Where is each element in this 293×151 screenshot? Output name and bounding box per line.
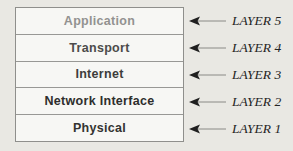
layer-box-label: Application	[64, 14, 135, 28]
layer-annotation-2: LAYER 2	[189, 88, 281, 115]
layer-box-label: Internet	[75, 67, 123, 81]
layer-box-transport: Transport	[16, 34, 183, 61]
layer-box-label: Network Interface	[45, 94, 155, 108]
layer-tag: LAYER 1	[232, 121, 281, 137]
layer-tag: LAYER 4	[232, 40, 281, 56]
left-arrow-icon	[189, 124, 227, 134]
layer-annotations: LAYER 5 LAYER 4 LAYER 3 LAYER 2	[189, 7, 281, 142]
layer-annotation-4: LAYER 4	[189, 34, 281, 61]
left-arrow-icon	[189, 70, 227, 80]
layer-tag: LAYER 5	[232, 13, 281, 29]
layer-annotation-3: LAYER 3	[189, 61, 281, 88]
layer-box-network-interface: Network Interface	[16, 87, 183, 114]
left-arrow-icon	[189, 43, 227, 53]
left-arrow-icon	[189, 97, 227, 107]
protocol-stack-box: Application Transport Internet Network I…	[15, 7, 184, 142]
layer-box-label: Transport	[69, 41, 129, 55]
layer-box-physical: Physical	[16, 114, 183, 141]
layer-annotation-1: LAYER 1	[189, 115, 281, 142]
layer-box-label: Physical	[73, 121, 126, 135]
left-arrow-icon	[189, 16, 227, 26]
layer-tag: LAYER 3	[232, 67, 281, 83]
layer-tag: LAYER 2	[232, 94, 281, 110]
layer-annotation-5: LAYER 5	[189, 7, 281, 34]
tcpip-layer-diagram: Application Transport Internet Network I…	[0, 0, 293, 151]
layer-box-internet: Internet	[16, 61, 183, 88]
layer-box-application: Application	[16, 8, 183, 34]
